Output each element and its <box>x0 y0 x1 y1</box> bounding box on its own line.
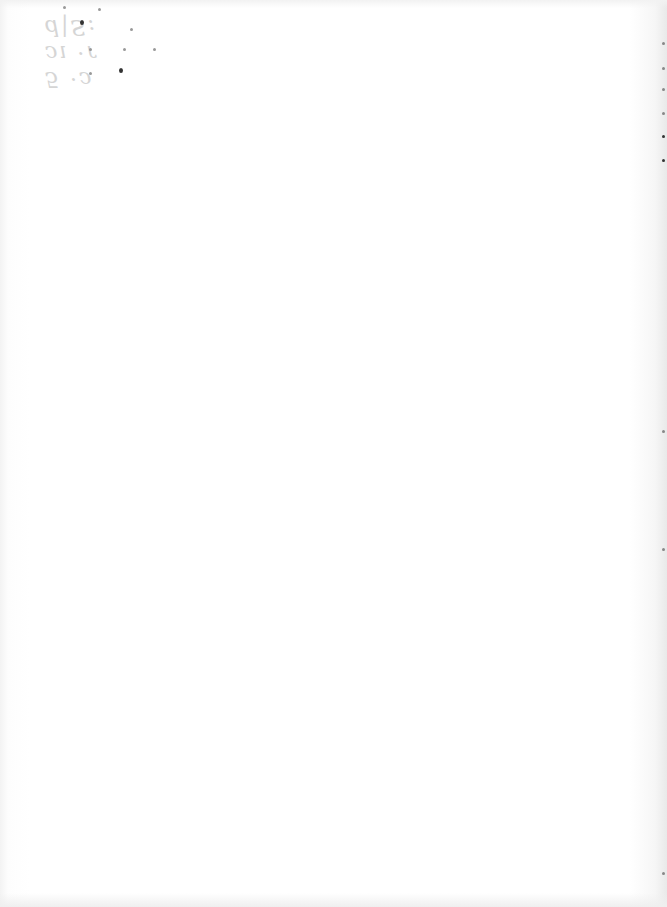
ink-dot <box>123 48 126 51</box>
bleed-through-line: 5 ·ɔ <box>45 66 185 92</box>
bleed-through-handwriting: 5 ·ɔ ɔı ·ɾ d|S: <box>45 2 185 92</box>
edge-mark <box>662 430 665 433</box>
edge-mark <box>662 872 665 875</box>
ink-dot <box>63 6 66 9</box>
edge-mark <box>662 42 665 45</box>
edge-mark <box>662 159 665 162</box>
ink-dot <box>98 8 101 11</box>
edge-mark <box>662 548 665 551</box>
ink-dot <box>119 68 123 73</box>
ink-dot <box>89 48 92 51</box>
scanned-page: 5 ·ɔ ɔı ·ɾ d|S: <box>0 0 667 907</box>
ink-dot <box>130 28 133 31</box>
edge-mark <box>662 135 665 138</box>
edge-mark <box>662 88 665 91</box>
ink-dot <box>80 20 84 25</box>
edge-mark <box>662 67 665 70</box>
ink-dot <box>89 72 92 75</box>
bleed-through-line: ɔı ·ɾ <box>45 40 185 66</box>
bleed-through-line: d|S: <box>45 14 185 40</box>
ink-dot <box>153 48 156 51</box>
edge-mark <box>662 112 665 115</box>
